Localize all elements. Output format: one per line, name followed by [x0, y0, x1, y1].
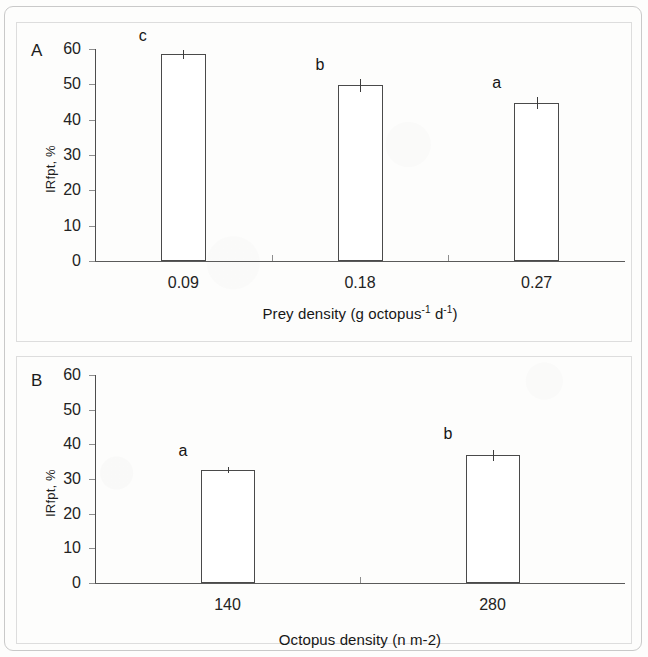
x-axis-title-text: Prey density (g octopus — [262, 305, 421, 322]
error-bar — [360, 79, 361, 92]
panel-a-y-tick-label: 0 — [47, 253, 81, 269]
panel-a-y-tick-mark — [89, 49, 95, 50]
panel-a-x-tick-label: 0.27 — [497, 275, 577, 291]
panel-a-x-axis-line — [95, 261, 625, 262]
panel-a-y-tick-label: 60 — [47, 41, 81, 57]
panel-b-x-tick-label: 280 — [453, 597, 533, 613]
panel-b-y-tick-mark — [89, 514, 95, 515]
panel-a-y-tick-label: 50 — [47, 76, 81, 92]
panel-a-y-tick-mark — [89, 261, 95, 262]
bar — [466, 455, 520, 583]
x-axis-title-text: ) — [452, 305, 457, 322]
panel-a-y-tick-label: 20 — [47, 182, 81, 198]
significance-letter: b — [444, 426, 453, 442]
panel-a-label: A — [31, 41, 43, 61]
panel-a-plot-area: 0102030405060c0.09b0.18a0.27 — [95, 49, 625, 261]
panel-b-x-axis-line — [95, 583, 625, 584]
panel-b-y-tick-label: 0 — [47, 575, 81, 591]
panel-b-y-tick-label: 30 — [47, 471, 81, 487]
panel-b-y-tick-mark — [89, 583, 95, 584]
significance-letter: a — [492, 75, 501, 91]
panel-b-y-tick-label: 40 — [47, 436, 81, 452]
panel-b: B IRfpt, % 0102030405060a140b280 Octopus… — [16, 356, 632, 644]
panel-b-y-tick-mark — [89, 444, 95, 445]
panel-a-y-tick-mark — [89, 190, 95, 191]
panel-a-y-tick-mark — [89, 155, 95, 156]
x-axis-title-text: d — [431, 305, 444, 322]
panel-a: A IRfpt, % 0102030405060c0.09b0.18a0.27 … — [16, 22, 632, 342]
panel-a-y-tick-mark — [89, 226, 95, 227]
panel-b-x-axis-title: Octopus density (n m-2) — [95, 631, 625, 648]
panel-b-y-tick-label: 50 — [47, 402, 81, 418]
panel-b-y-tick-mark — [89, 375, 95, 376]
bar — [514, 103, 559, 261]
panel-b-y-tick-mark — [89, 479, 95, 480]
error-bar — [537, 97, 538, 109]
bar — [338, 85, 383, 261]
panel-a-x-tick-label: 0.09 — [143, 275, 223, 291]
panel-b-x-tick-label: 140 — [188, 597, 268, 613]
panel-a-x-tick-label: 0.18 — [320, 275, 400, 291]
panel-b-y-tick-mark — [89, 548, 95, 549]
panel-a-x-tick-mark — [448, 255, 449, 261]
bar — [161, 54, 206, 261]
significance-letter: b — [316, 57, 325, 73]
significance-letter: a — [179, 443, 188, 459]
error-bar — [183, 50, 184, 58]
panel-a-x-tick-mark — [272, 255, 273, 261]
figure-page: A IRfpt, % 0102030405060c0.09b0.18a0.27 … — [0, 0, 648, 657]
x-axis-title-superscript: -1 — [422, 304, 431, 315]
error-bar — [493, 450, 494, 460]
panel-b-y-tick-label: 60 — [47, 367, 81, 383]
panel-b-plot-area: 0102030405060a140b280 — [95, 375, 625, 583]
panel-b-y-tick-label: 10 — [47, 540, 81, 556]
panel-a-y-axis-line — [95, 49, 96, 261]
significance-letter: c — [139, 28, 147, 44]
panel-a-y-tick-mark — [89, 120, 95, 121]
panel-b-x-tick-mark — [360, 577, 361, 583]
bar — [201, 470, 255, 583]
panel-a-y-tick-label: 10 — [47, 218, 81, 234]
panel-b-y-tick-label: 20 — [47, 506, 81, 522]
panel-a-y-tick-label: 40 — [47, 112, 81, 128]
panel-a-y-tick-label: 30 — [47, 147, 81, 163]
error-bar — [228, 467, 229, 474]
panel-b-y-tick-mark — [89, 410, 95, 411]
panel-a-x-axis-title: Prey density (g octopus-1 d-1) — [95, 305, 625, 322]
panel-b-label: B — [31, 371, 43, 391]
panel-b-y-axis-line — [95, 375, 96, 583]
panel-a-y-tick-mark — [89, 84, 95, 85]
